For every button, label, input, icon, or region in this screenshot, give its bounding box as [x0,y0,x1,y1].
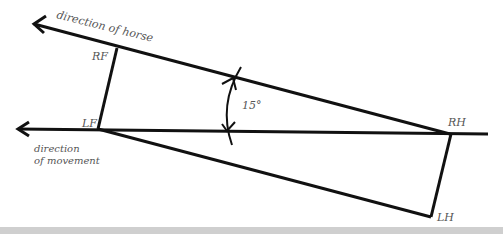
lf-label: LF [81,117,97,130]
direction-of-movement-label-line1: direction [34,143,80,154]
lh-label: LH [436,211,454,224]
angle-label: 15° [242,99,262,112]
lf-lh-segment [98,129,431,217]
bottom-band [0,227,503,234]
rf-label: RF [91,50,108,63]
direction-of-movement-label-line2: of movement [34,155,101,166]
rh-lh-segment [431,134,451,217]
horse-movement-diagram: direction of horse RF LF direction of mo… [0,0,503,234]
diagram-canvas: direction of horse RF LF direction of mo… [0,0,503,234]
angle-arrow-up-icon [222,78,236,90]
direction-of-horse-label: direction of horse [55,8,155,45]
rh-label: RH [447,116,466,129]
